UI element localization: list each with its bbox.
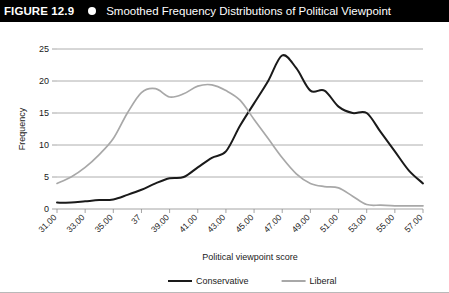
y-tick-label: 0 (44, 204, 49, 214)
x-tick-label: 37 (129, 212, 143, 226)
figure-number: FIGURE 12.9 (4, 5, 74, 17)
y-tick-label: 10 (39, 140, 49, 150)
x-tick-label: 53.00 (346, 212, 368, 234)
y-tick-label: 5 (44, 172, 49, 182)
x-tick-label: 57.00 (402, 212, 424, 234)
x-tick-label: 47.00 (262, 212, 284, 234)
y-axis-title: Frequency (17, 107, 27, 150)
figure-title: Smoothed Frequency Distributions of Poli… (106, 5, 391, 17)
x-tick-label: 31.00 (36, 212, 58, 234)
x-axis-title: Political viewpoint score (202, 252, 298, 262)
data-series (57, 55, 423, 206)
x-tick-label: 55.00 (374, 212, 396, 234)
chart-container: 0510152025 31.0033.0035.003739.0041.0043… (0, 22, 449, 293)
filled-circle-icon (88, 7, 96, 15)
gridlines (57, 49, 423, 209)
x-axis-ticks: 31.0033.0035.003739.0041.0043.0045.0047.… (36, 209, 424, 234)
legend-label: Liberal (310, 276, 337, 286)
x-tick-label: 35.00 (93, 212, 115, 234)
frequency-distribution-chart: 0510152025 31.0033.0035.003739.0041.0043… (0, 22, 449, 293)
y-tick-label: 25 (39, 44, 49, 54)
x-tick-label: 33.00 (64, 212, 86, 234)
x-tick-label: 43.00 (205, 212, 227, 234)
figure-header-bar: FIGURE 12.9 Smoothed Frequency Distribut… (0, 0, 449, 22)
x-tick-label: 49.00 (290, 212, 312, 234)
chart-legend: ConservativeLiberal (168, 276, 337, 286)
y-axis-ticks: 0510152025 (39, 44, 57, 214)
x-tick-label: 45.00 (233, 212, 255, 234)
x-tick-label: 51.00 (318, 212, 340, 234)
legend-label: Conservative (196, 276, 249, 286)
y-tick-label: 15 (39, 108, 49, 118)
series-line-conservative (57, 55, 423, 203)
y-tick-label: 20 (39, 76, 49, 86)
x-tick-label: 41.00 (177, 212, 199, 234)
x-tick-label: 39.00 (149, 212, 171, 234)
